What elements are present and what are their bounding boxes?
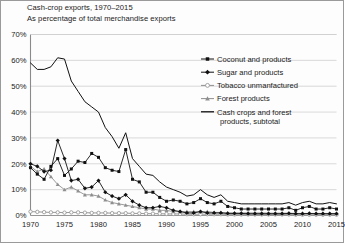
data-point-marker bbox=[137, 203, 141, 207]
data-point-marker bbox=[179, 200, 182, 203]
x-axis-tick-label: 2015 bbox=[328, 220, 345, 229]
data-point-marker bbox=[328, 206, 331, 209]
x-axis-tick-label: 1975 bbox=[56, 220, 73, 229]
legend-item-cash-crops-and-forest[interactable]: Cash crops and forestproducts, subtotal bbox=[201, 108, 292, 127]
data-point-marker bbox=[138, 212, 141, 215]
legend-label-line2: products, subtotal bbox=[220, 117, 280, 126]
data-point-marker bbox=[69, 178, 73, 182]
data-point-marker bbox=[158, 204, 162, 208]
data-point-marker bbox=[117, 197, 121, 201]
data-point-marker bbox=[131, 178, 134, 181]
data-point-marker bbox=[151, 212, 154, 215]
data-point-marker bbox=[145, 191, 148, 194]
y-axis-tick-label: 0% bbox=[16, 211, 27, 220]
data-point-marker bbox=[28, 162, 32, 166]
data-point-marker bbox=[90, 152, 93, 155]
data-point-marker bbox=[247, 208, 250, 211]
x-axis-tick-label: 1985 bbox=[124, 220, 141, 229]
x-axis-tick-label: 2010 bbox=[294, 220, 311, 229]
data-point-marker bbox=[29, 166, 32, 169]
data-point-marker bbox=[111, 169, 114, 172]
data-point-marker bbox=[274, 208, 277, 211]
data-point-marker bbox=[117, 211, 120, 214]
data-point-marker bbox=[281, 208, 284, 211]
legend-item-tobacco-unmanfactured[interactable]: Tobacco unmanfactured bbox=[201, 81, 298, 90]
data-point-marker bbox=[253, 208, 256, 211]
data-point-marker bbox=[76, 211, 79, 214]
x-axis-tick-label: 1970 bbox=[22, 220, 39, 229]
data-point-marker bbox=[226, 205, 229, 208]
data-point-marker bbox=[144, 212, 147, 215]
legend-label: Cash crops and forest bbox=[217, 108, 292, 117]
data-point-marker bbox=[104, 166, 107, 169]
legend-label: Coconut and products bbox=[217, 55, 292, 64]
data-point-marker bbox=[165, 200, 168, 203]
data-point-marker bbox=[124, 211, 127, 214]
series-line bbox=[31, 58, 337, 205]
legend-item-coconut-and-products[interactable]: Coconut and products bbox=[201, 55, 292, 64]
x-axis-tick-label: 1990 bbox=[158, 220, 175, 229]
data-point-marker bbox=[151, 191, 154, 194]
data-point-marker bbox=[103, 198, 107, 202]
legend-label: Forest products bbox=[217, 94, 270, 103]
data-point-marker bbox=[172, 198, 175, 201]
data-point-marker bbox=[97, 156, 100, 159]
data-point-marker bbox=[240, 208, 243, 211]
data-point-marker bbox=[43, 178, 46, 181]
data-point-marker bbox=[192, 201, 195, 204]
data-point-marker bbox=[69, 185, 73, 189]
data-point-marker bbox=[205, 70, 210, 75]
data-point-marker bbox=[233, 206, 236, 209]
data-point-marker bbox=[213, 202, 216, 205]
y-axis-tick-label: 70% bbox=[11, 30, 26, 39]
data-point-marker bbox=[124, 148, 127, 151]
data-point-marker bbox=[335, 208, 338, 211]
data-point-marker bbox=[63, 211, 66, 214]
data-point-marker bbox=[36, 210, 39, 213]
data-point-marker bbox=[158, 212, 161, 215]
data-point-marker bbox=[110, 194, 114, 198]
data-point-marker bbox=[103, 190, 107, 194]
data-point-marker bbox=[56, 138, 60, 142]
data-point-marker bbox=[42, 210, 45, 213]
y-axis-tick-label: 40% bbox=[11, 108, 26, 117]
legend-item-sugar-and-products[interactable]: Sugar and products bbox=[201, 68, 283, 77]
x-axis-tick-label: 2000 bbox=[226, 220, 243, 229]
data-point-marker bbox=[165, 212, 168, 215]
y-axis-tick-labels: 0%10%20%30%40%50%60%70% bbox=[11, 30, 26, 220]
x-axis-tick-labels: 1970197519801985199019952000200520102015 bbox=[22, 220, 345, 229]
data-point-marker bbox=[315, 208, 318, 211]
y-axis-tick-label: 10% bbox=[11, 185, 26, 194]
data-point-marker bbox=[321, 208, 324, 211]
data-point-marker bbox=[185, 202, 188, 205]
data-point-marker bbox=[260, 208, 263, 211]
data-point-marker bbox=[206, 83, 210, 87]
data-point-marker bbox=[49, 165, 52, 168]
chart-legend: Coconut and productsSugar and productsTo… bbox=[201, 55, 298, 126]
data-point-marker bbox=[294, 209, 297, 212]
data-point-marker bbox=[83, 161, 86, 164]
data-point-marker bbox=[104, 211, 107, 214]
y-axis-tick-label: 60% bbox=[11, 56, 26, 65]
legend-item-forest-products[interactable]: Forest products bbox=[201, 94, 270, 103]
data-point-marker bbox=[206, 201, 209, 204]
x-axis-tick-label: 1980 bbox=[90, 220, 107, 229]
data-point-marker bbox=[301, 206, 304, 209]
data-point-marker bbox=[56, 157, 59, 160]
y-axis-tick-label: 30% bbox=[11, 134, 26, 143]
data-point-marker bbox=[56, 211, 59, 214]
data-point-marker bbox=[70, 211, 73, 214]
data-point-marker bbox=[110, 211, 113, 214]
data-point-marker bbox=[131, 212, 134, 215]
legend-label: Tobacco unmanfactured bbox=[217, 81, 298, 90]
data-point-marker bbox=[138, 180, 141, 183]
x-axis-tick-label: 1995 bbox=[192, 220, 209, 229]
data-point-marker bbox=[206, 57, 209, 60]
data-point-marker bbox=[90, 211, 93, 214]
series-cash-crops-and-forest-products-subtotal bbox=[31, 58, 337, 205]
data-point-marker bbox=[267, 208, 270, 211]
data-point-marker bbox=[158, 196, 161, 199]
data-point-marker bbox=[77, 160, 80, 163]
y-axis-tick-label: 50% bbox=[11, 82, 26, 91]
y-axis-tick-label: 20% bbox=[11, 160, 26, 169]
